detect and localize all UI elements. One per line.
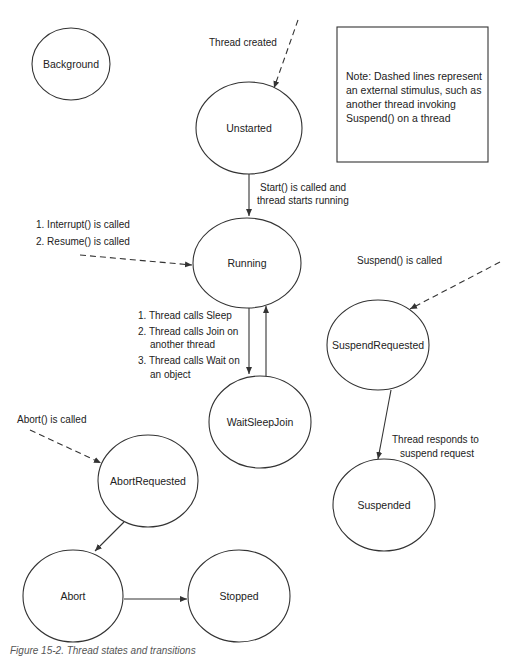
arrow-suspendrequested-to-suspended (378, 390, 391, 459)
label-start-line-2: thread starts running (257, 195, 349, 206)
label-resume: 2. Resume() is called (36, 236, 130, 247)
state-label-running: Running (227, 257, 266, 269)
dashed-arrow-thread-created (274, 20, 298, 88)
dashed-arrow-abort (30, 430, 101, 463)
state-abort: Abort (23, 550, 123, 642)
label-thread-created: Thread created (209, 37, 277, 48)
state-abortrequested: AbortRequested (98, 435, 198, 527)
label-abort-called: Abort() is called (17, 414, 86, 425)
state-label-abort: Abort (60, 590, 85, 602)
state-background: Background (32, 28, 110, 100)
state-label-background: Background (43, 58, 99, 70)
figure-caption: Figure 15-2. Thread states and transitio… (10, 645, 196, 656)
note-line-4: Suspend() on a thread (346, 112, 451, 124)
state-label-suspendrequested: SuspendRequested (332, 339, 424, 351)
state-suspendrequested: SuspendRequested (327, 300, 429, 390)
label-responds-line-1: Thread responds to (392, 434, 479, 445)
note-box: Note: Dashed lines represent an external… (337, 27, 488, 162)
state-label-waitsleepjoin: WaitSleepJoin (227, 416, 294, 428)
arrow-abortrequested-to-abort (95, 522, 124, 551)
state-suspended: Suspended (333, 459, 435, 551)
state-label-unstarted: Unstarted (226, 122, 272, 134)
label-start-line-1: Start() is called and (260, 182, 346, 193)
label-responds-line-2: suspend request (400, 448, 474, 459)
label-wait-join: 2. Thread calls Join on (138, 326, 238, 337)
label-wait-sleep: 1. Thread calls Sleep (138, 310, 232, 321)
state-label-suspended: Suspended (357, 499, 410, 511)
state-running: Running (193, 218, 301, 308)
note-line-2: an external stimulus, such as (346, 84, 481, 96)
thread-state-diagram: Background Thread created Note: Dashed l… (0, 0, 512, 657)
state-label-abortrequested: AbortRequested (110, 475, 186, 487)
label-wait-join-cont: another thread (150, 339, 215, 350)
label-wait-wait-cont: an object (150, 369, 191, 380)
dashed-arrow-suspend (410, 262, 500, 309)
label-suspend-called: Suspend() is called (357, 255, 442, 266)
state-waitsleepjoin: WaitSleepJoin (209, 376, 311, 468)
state-label-stopped: Stopped (219, 590, 258, 602)
label-wait-wait: 3. Thread calls Wait on (138, 355, 240, 366)
dashed-arrow-interrupt-resume (80, 255, 192, 265)
state-unstarted: Unstarted (196, 82, 302, 174)
label-interrupt: 1. Interrupt() is called (36, 219, 130, 230)
state-stopped: Stopped (188, 550, 290, 642)
note-line-3: another thread invoking (346, 98, 456, 110)
note-line-1: Note: Dashed lines represent (346, 70, 482, 82)
